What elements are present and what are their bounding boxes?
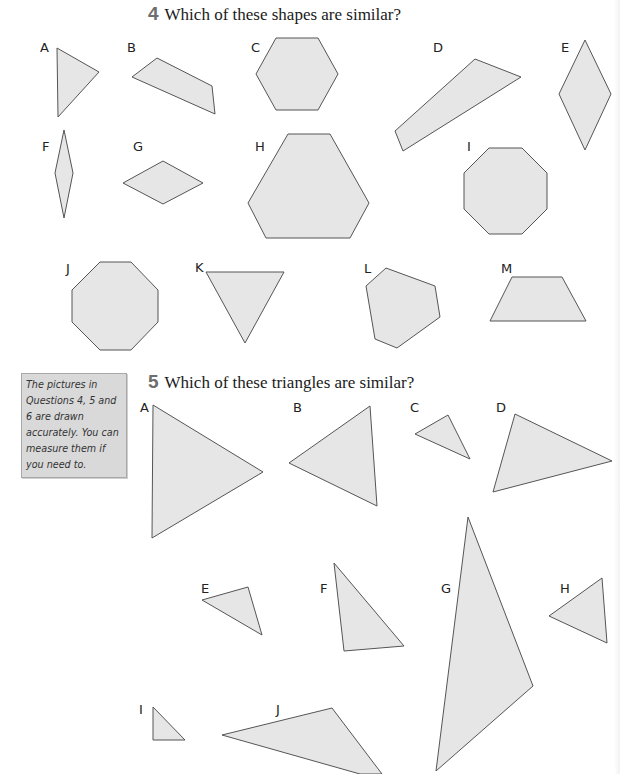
label-4e: E [561, 41, 569, 54]
triangle-i [153, 707, 185, 740]
shape-a-triangle [57, 48, 99, 117]
label-5f: F [320, 582, 327, 595]
label-4i: I [467, 140, 471, 153]
triangle-e [202, 587, 262, 635]
triangle-j [222, 708, 382, 774]
question-5-text: Which of these triangles are similar? [165, 373, 415, 392]
shape-d-quadrilateral [395, 59, 521, 151]
shape-i-octagon [464, 148, 547, 234]
label-4l: L [364, 262, 371, 275]
shape-f-rhombus [55, 130, 73, 218]
shape-c-hexagon [256, 38, 338, 110]
shape-k-triangle [206, 272, 284, 343]
label-5e: E [201, 582, 209, 595]
triangle-h [549, 578, 607, 643]
label-4a: A [40, 41, 49, 54]
triangle-g [436, 517, 533, 771]
label-5d: D [496, 401, 506, 414]
label-5j: J [276, 703, 280, 716]
triangle-a [152, 405, 263, 538]
shape-g-rhombus [123, 161, 203, 204]
label-4b: B [127, 41, 136, 54]
label-4c: C [251, 41, 260, 54]
triangle-b [289, 406, 377, 506]
label-4j: J [66, 262, 70, 275]
label-4f: F [42, 140, 49, 153]
shape-b-quadrilateral [132, 58, 215, 114]
label-4h: H [255, 140, 265, 153]
label-4d: D [433, 41, 443, 54]
question-5-triangles [152, 405, 612, 774]
question-5-number: 5 [148, 371, 159, 392]
label-5h: H [560, 582, 570, 595]
shape-m-trapezium [490, 277, 586, 321]
triangle-f [334, 563, 404, 651]
shape-j-octagon [72, 262, 158, 350]
label-5a: A [140, 401, 149, 414]
label-4m: M [501, 262, 512, 275]
question-4-shapes [55, 38, 611, 350]
page-edge-shadow [614, 0, 620, 774]
question-5-heading: 5Which of these triangles are similar? [148, 371, 414, 393]
label-5i: I [139, 703, 143, 716]
measurement-note: The pictures in Questions 4, 5 and 6 are… [21, 373, 127, 478]
shape-e-rhombus [559, 40, 611, 150]
label-5b: B [293, 401, 302, 414]
label-5c: C [410, 401, 419, 414]
label-5g: G [441, 582, 451, 595]
label-4k: K [195, 261, 204, 274]
triangle-c [415, 415, 470, 459]
triangle-d [493, 414, 612, 492]
shape-h-hexagon [248, 134, 369, 238]
textbook-page: 4Which of these shapes are similar? [0, 0, 620, 774]
label-4g: G [133, 140, 143, 153]
shape-l-pentagon [366, 268, 440, 348]
